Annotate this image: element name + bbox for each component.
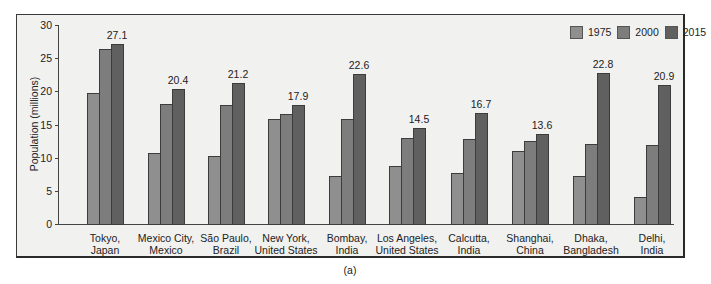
value-label: 20.9 [644,70,684,82]
legend-swatch [570,26,583,39]
y-tick-label: 0 [30,218,52,230]
legend-label: 2000 [635,26,658,38]
legend-label: 2015 [683,26,706,38]
value-label: 22.8 [583,58,623,70]
legend-item-2015: 2015 [665,26,706,39]
legend-label: 1975 [588,26,611,38]
bar-2015 [658,85,671,225]
y-tick [55,25,59,26]
bar-2015 [292,105,305,225]
value-label: 27.1 [97,29,137,41]
y-tick-label: 5 [30,185,52,197]
category-label-line: India [612,244,692,256]
y-tick [55,191,59,192]
bar-2015 [597,73,610,225]
legend-item-2000: 2000 [617,26,658,39]
value-label: 20.4 [158,74,198,86]
y-tick-label: 10 [30,152,52,164]
y-tick [55,224,59,225]
bar-2015 [353,74,366,225]
legend-item-1975: 1975 [570,26,611,39]
bar-2015 [232,83,245,225]
value-label: 22.6 [339,59,379,71]
value-label: 16.7 [461,98,501,110]
y-tick-label: 30 [30,19,52,31]
bar-2015 [111,44,124,225]
category-label: Delhi,India [612,232,692,256]
y-tick [55,58,59,59]
bar-2015 [475,113,488,225]
value-label: 14.5 [399,113,439,125]
y-tick-label: 20 [30,85,52,97]
figure-caption: (a) [330,264,370,276]
legend: 1975 2000 2015 [570,24,711,40]
y-tick [55,91,59,92]
value-label: 17.9 [278,90,318,102]
legend-swatch [617,26,630,39]
y-tick [55,158,59,159]
y-tick [55,125,59,126]
y-tick-label: 25 [30,52,52,64]
value-label: 13.6 [522,119,562,131]
value-label: 21.2 [218,68,258,80]
bar-2015 [536,134,549,225]
bar-2015 [172,89,185,225]
y-tick-label: 15 [30,119,52,131]
bar-2015 [413,128,426,225]
category-label-line: Delhi, [612,232,692,244]
legend-swatch [665,26,678,39]
